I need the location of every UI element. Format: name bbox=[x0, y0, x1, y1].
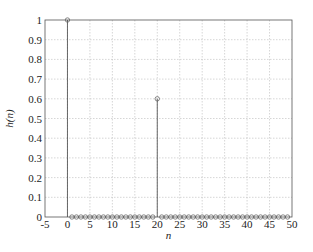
y-tick-label: 1 bbox=[37, 14, 43, 26]
y-tick-label: 0.1 bbox=[28, 191, 42, 203]
x-tick-label: 30 bbox=[197, 218, 209, 230]
y-tick-label: 0.2 bbox=[28, 172, 42, 184]
x-tick-label: 25 bbox=[174, 218, 186, 230]
y-axis-label: h(n) bbox=[3, 109, 16, 128]
x-tick-label: 10 bbox=[107, 218, 119, 230]
x-tick-label: 15 bbox=[129, 218, 141, 230]
x-tick-label: 45 bbox=[264, 218, 276, 230]
y-tick-label: 0.7 bbox=[28, 73, 42, 85]
x-axis-label: n bbox=[166, 229, 172, 241]
y-tick-label: 0.3 bbox=[28, 152, 42, 164]
x-tick-label: 5 bbox=[87, 218, 93, 230]
y-tick-label: 0.9 bbox=[28, 34, 42, 46]
x-tick-label: 0 bbox=[65, 218, 71, 230]
x-tick-label: 50 bbox=[287, 218, 299, 230]
x-tick-label: 40 bbox=[242, 218, 254, 230]
y-tick-label: 0.4 bbox=[28, 132, 42, 144]
y-tick-label: 0.5 bbox=[28, 113, 42, 125]
y-tick-label: 0.8 bbox=[28, 53, 42, 65]
y-tick-label: 0.6 bbox=[28, 93, 42, 105]
x-tick-label: 35 bbox=[219, 218, 231, 230]
stem-chart: -50510152025303540455000.10.20.30.40.50.… bbox=[0, 0, 313, 252]
x-tick-label: 20 bbox=[152, 218, 164, 230]
y-tick-label: 0 bbox=[37, 211, 43, 223]
